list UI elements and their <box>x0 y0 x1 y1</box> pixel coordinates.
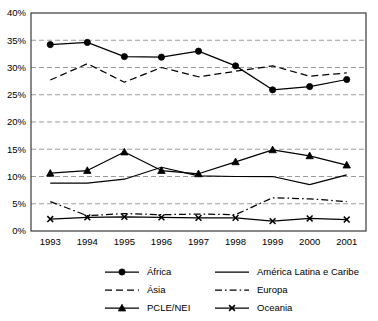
y-tick-label: 0% <box>12 225 26 236</box>
chart-canvas: 0%5%10%15%20%25%30%35%40% 19931994199519… <box>0 0 378 321</box>
marker-circle <box>121 54 127 60</box>
y-tick-label: 15% <box>7 144 27 155</box>
marker-circle <box>158 54 164 60</box>
legend-label: Ásia <box>147 284 166 295</box>
y-tick-label: 10% <box>7 171 27 182</box>
x-tick-label: 1997 <box>188 236 209 247</box>
marker-circle <box>270 87 276 93</box>
legend-label: Oceania <box>257 302 293 313</box>
x-tick-label: 1994 <box>77 236 98 247</box>
marker-circle <box>47 42 53 48</box>
x-tick-label: 1996 <box>151 236 172 247</box>
marker-circle <box>232 63 238 69</box>
x-tick-label: 1999 <box>262 236 283 247</box>
marker-circle <box>84 39 90 45</box>
marker-circle <box>195 48 201 54</box>
legend-label: América Latina e Caribe <box>257 266 359 277</box>
y-tick-label: 20% <box>7 116 27 127</box>
y-tick-label: 35% <box>7 35 27 46</box>
marker-circle <box>119 269 125 275</box>
x-tick-label: 2001 <box>336 236 357 247</box>
y-tick-label: 25% <box>7 89 27 100</box>
legend-label: Europa <box>257 284 288 295</box>
x-tick-label: 1993 <box>40 236 61 247</box>
line-chart: 0%5%10%15%20%25%30%35%40% 19931994199519… <box>0 0 378 321</box>
y-tick-label: 30% <box>7 62 27 73</box>
legend-label: PCLE/NEI <box>147 302 190 313</box>
x-tick-label: 2000 <box>299 236 320 247</box>
x-axis-tick-labels: 199319941995199619971998199920002001 <box>40 236 358 247</box>
x-tick-label: 1998 <box>225 236 246 247</box>
marker-circle <box>307 83 313 89</box>
legend-label: África <box>147 266 172 277</box>
marker-circle <box>344 76 350 82</box>
y-tick-label: 5% <box>12 198 26 209</box>
y-tick-label: 40% <box>7 7 27 18</box>
x-tick-label: 1995 <box>114 236 135 247</box>
